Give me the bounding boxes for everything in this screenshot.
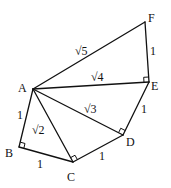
length-label-BC: 1 (37, 157, 43, 171)
length-label-AE: √4 (91, 70, 104, 84)
segment-EF (145, 22, 149, 82)
length-label-EF: 1 (150, 44, 156, 58)
segment-CD (73, 135, 123, 162)
vertex-label-F: F (148, 11, 155, 25)
vertex-label-A: A (18, 81, 27, 95)
length-label-AB: 1 (17, 108, 23, 122)
length-label-CD: 1 (99, 149, 105, 163)
segment-AD (33, 89, 123, 135)
length-label-AD: √3 (84, 102, 97, 116)
vertex-label-D: D (126, 135, 135, 149)
vertex-label-C: C (67, 170, 75, 184)
length-label-AF: √5 (75, 44, 88, 58)
spiral-of-theodorus-diagram: 11√21√31√41√5 ABCDEF (0, 0, 171, 188)
vertex-label-B: B (5, 146, 13, 160)
length-label-DE: 1 (141, 102, 147, 116)
vertex-label-E: E (151, 79, 158, 93)
segment-AF (33, 22, 145, 89)
length-label-AC: √2 (32, 123, 45, 137)
segment-BC (19, 147, 73, 162)
